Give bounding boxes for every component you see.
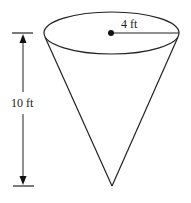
radius-label: 4 ft — [121, 17, 138, 31]
cone-right-edge — [112, 37, 178, 186]
center-dot — [108, 30, 114, 36]
arrowhead-up-icon — [20, 34, 27, 43]
arrowhead-down-icon — [20, 176, 27, 185]
diagram-svg: 4 ft 10 ft — [0, 0, 191, 203]
height-label: 10 ft — [11, 96, 34, 110]
cone-left-edge — [45, 37, 112, 186]
cone-diagram: 4 ft 10 ft — [0, 0, 191, 203]
